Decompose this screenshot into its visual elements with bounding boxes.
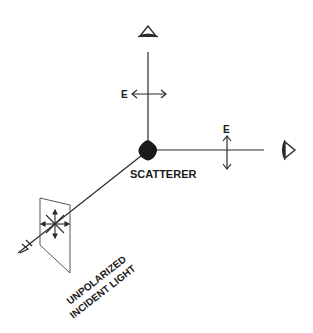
incident-light-caption: UNPOLARIZED INCIDENT LIGHT [60, 252, 138, 320]
side-e-label: E [223, 124, 230, 135]
incident-beam [18, 152, 146, 253]
unpolarized-field-star-icon [41, 210, 69, 238]
top-e-label: E [121, 89, 128, 100]
top-e-field-arrow-icon [132, 90, 166, 98]
side-e-field-arrow-icon [223, 136, 231, 169]
scatterer-label: SCATTERER [130, 168, 196, 180]
scatterer-blob [138, 140, 157, 160]
scattering-diagram: SCATTERER E E UNPOLARIZED INCIDENT LIGHT [0, 0, 313, 333]
top-observer-eye-icon [138, 26, 158, 37]
right-observer-eye-icon [283, 140, 296, 160]
